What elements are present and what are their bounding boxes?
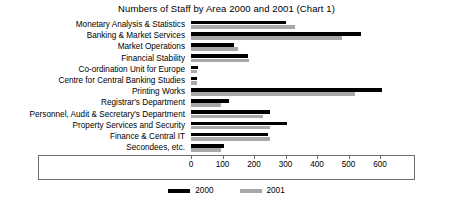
x-tick-label: 0	[189, 160, 194, 170]
bar-2000	[191, 88, 382, 92]
bar-2000	[191, 99, 229, 103]
x-tick-label: 100	[216, 160, 230, 170]
category-label: Banking & Market Services	[0, 30, 185, 41]
x-tick-label: 300	[279, 160, 293, 170]
category-label: Personnel, Audit & Secretary's Departmen…	[0, 109, 185, 120]
category-label: Secondees, etc.	[0, 142, 185, 153]
bar-2000	[191, 110, 270, 114]
legend-item: 2001	[240, 186, 285, 196]
bar-2001	[191, 126, 270, 130]
x-tick-label: 400	[310, 160, 324, 170]
bar-2001	[191, 59, 249, 63]
category-label: Registrar's Department	[0, 97, 185, 108]
x-tick-label: 500	[342, 160, 356, 170]
bar-2000	[191, 144, 224, 148]
x-tick-mark	[223, 156, 224, 159]
bar-2001	[191, 92, 355, 96]
chart-container: Numbers of Staff by Area 2000 and 2001 (…	[0, 0, 453, 206]
x-tick-mark	[380, 156, 381, 159]
category-label: Monetary Analysis & Statistics	[0, 19, 185, 30]
bar-2000	[191, 43, 234, 47]
chart-row: Secondees, etc.	[0, 143, 453, 154]
x-axis-tick-labels: 0100200300400500600	[0, 155, 453, 180]
plot-area: Monetary Analysis & StatisticsBanking & …	[0, 20, 453, 153]
bar-2001	[191, 115, 263, 119]
bar-2001	[191, 25, 295, 29]
x-tick-mark	[254, 156, 255, 159]
bar-2001	[191, 137, 270, 141]
category-label: Co-ordination Unit for Europe	[0, 64, 185, 75]
x-tick-mark	[286, 156, 287, 159]
bar-2001	[191, 47, 238, 51]
chart-legend: 20002001	[0, 186, 453, 196]
bar-2000	[191, 122, 287, 126]
category-label: Printing Works	[0, 86, 185, 97]
bar-2001	[191, 70, 197, 74]
legend-item: 2000	[168, 186, 213, 196]
bar-2000	[191, 77, 197, 81]
legend-swatch-2000	[168, 189, 190, 193]
category-label: Market Operations	[0, 41, 185, 52]
bar-2001	[191, 81, 197, 85]
category-label: Property Services and Security	[0, 120, 185, 131]
bar-2001	[191, 36, 342, 40]
x-tick-mark	[317, 156, 318, 159]
legend-label: 2000	[195, 186, 213, 196]
bar-2001	[191, 103, 221, 107]
x-tick-mark	[349, 156, 350, 159]
category-label: Centre for Central Banking Studies	[0, 75, 185, 86]
bar-2000	[191, 54, 248, 58]
bar-2000	[191, 133, 268, 137]
bar-2000	[191, 21, 286, 25]
x-tick-label: 200	[247, 160, 261, 170]
bar-2001	[191, 148, 221, 152]
x-tick-label: 600	[373, 160, 387, 170]
x-tick-mark	[191, 156, 192, 159]
category-label: Financial Stability	[0, 53, 185, 64]
category-label: Finance & Central IT	[0, 131, 185, 142]
chart-title: Numbers of Staff by Area 2000 and 2001 (…	[0, 3, 453, 15]
bar-2000	[191, 32, 361, 36]
legend-label: 2001	[267, 186, 285, 196]
bar-2000	[191, 66, 198, 70]
legend-swatch-2001	[240, 189, 262, 193]
